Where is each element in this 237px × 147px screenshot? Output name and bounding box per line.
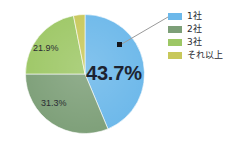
legend-label: 3社 — [187, 38, 202, 47]
slice-label-2sha: 31.3% — [41, 99, 67, 108]
legend: 1社 2社 3社 それ以上 — [168, 10, 237, 62]
legend-swatch-icon — [168, 13, 182, 20]
legend-label: 2社 — [187, 25, 202, 34]
legend-item-2sha[interactable]: 2社 — [168, 23, 237, 36]
legend-item-1sha[interactable]: 1社 — [168, 10, 237, 23]
legend-label: それ以上 — [187, 51, 223, 60]
legend-swatch-icon — [168, 52, 182, 59]
slice-label-3sha: 21.9% — [33, 44, 59, 53]
pie-plot-area: 43.7% 31.3% 21.9% — [0, 0, 165, 147]
legend-item-3sha[interactable]: 3社 — [168, 36, 237, 49]
legend-swatch-icon — [168, 39, 182, 46]
legend-item-soreijou[interactable]: それ以上 — [168, 49, 237, 62]
pie-chart: 43.7% 31.3% 21.9% 1社 2社 3社 それ以上 — [0, 0, 237, 147]
legend-swatch-icon — [168, 26, 182, 33]
slice-label-1sha: 43.7% — [86, 63, 142, 83]
legend-label: 1社 — [187, 12, 202, 21]
